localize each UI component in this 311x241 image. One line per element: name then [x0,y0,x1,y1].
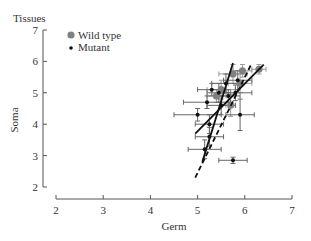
legend-mutant-label: Mutant [78,41,110,53]
y-tick-label: 7 [33,24,39,36]
x-tick-label: 2 [53,204,59,216]
scatter-chart: Tissues 234567 234567 Soma Germ Wild typ… [0,0,311,241]
x-axis-title: Germ [161,220,186,232]
y-axis: 234567 [33,24,48,193]
y-tick-label: 3 [33,150,39,162]
x-tick-label: 7 [289,204,295,216]
legend: Wild type Mutant [67,29,121,53]
wild-type-point [239,67,246,74]
mutant-point [236,78,240,82]
mutant-point [210,88,214,92]
y-tick-label: 4 [33,118,39,130]
mutant-point [196,113,200,117]
y-tick-label: 2 [33,181,39,193]
y-tick-label: 5 [33,87,39,99]
legend-wild-type-marker [67,31,74,38]
legend-wild-type-label: Wild type [78,29,121,41]
y-tick-label: 6 [33,55,39,67]
legend-mutant-marker [69,46,73,50]
mutant-point [231,158,235,162]
mutant-point [207,122,211,126]
mutant-point [226,94,230,98]
x-tick-label: 3 [100,204,106,216]
mutant-point [217,91,221,95]
x-axis: 234567 [53,195,295,216]
y-axis-title: Soma [8,107,20,132]
mutant-point [238,113,242,117]
mutant-point [205,100,209,104]
chart-title: Tissues [13,12,46,24]
error-bars [174,65,266,164]
x-tick-label: 6 [242,204,248,216]
x-tick-label: 5 [195,204,201,216]
x-tick-label: 4 [148,204,154,216]
